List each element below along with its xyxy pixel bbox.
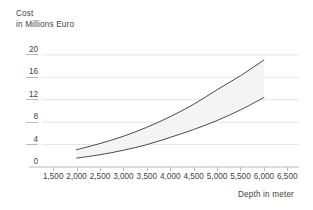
y-tick-rule-20 xyxy=(26,54,38,55)
y-tick-label-8: 8 xyxy=(20,112,38,121)
x-axis-title: Depth in meter xyxy=(238,190,294,201)
y-tick-label-20: 20 xyxy=(20,45,38,54)
y-tick-label-4: 4 xyxy=(20,135,38,144)
x-tick-label-6500: 6,500 xyxy=(270,172,304,181)
cost-vs-depth-chart: Cost in Millions Euro 048121620 1,5002,0… xyxy=(0,0,313,210)
band-fill-cost-range xyxy=(77,60,264,158)
y-tick-rule-8 xyxy=(26,122,38,123)
y-tick-rule-16 xyxy=(26,77,38,78)
y-tick-label-0: 0 xyxy=(20,157,38,166)
y-tick-rule-4 xyxy=(26,144,38,145)
y-tick-label-12: 12 xyxy=(20,90,38,99)
y-tick-rule-12 xyxy=(26,99,38,100)
y-tick-label-16: 16 xyxy=(20,67,38,76)
